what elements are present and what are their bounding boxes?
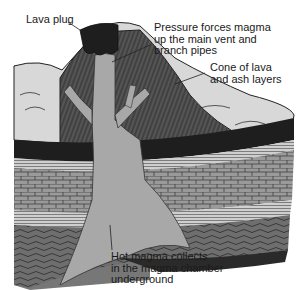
label-cone: Cone of lava and ash layers <box>210 62 282 85</box>
label-pressure: Pressure forces magma up the main vent a… <box>154 22 271 57</box>
lava-plug <box>80 23 118 55</box>
label-lava-plug: Lava plug <box>26 14 74 26</box>
label-magma-chamber: Hot magma collects in the magma chamber … <box>111 251 224 286</box>
volcano-diagram: Lava plug Pressure forces magma up the m… <box>0 0 306 290</box>
